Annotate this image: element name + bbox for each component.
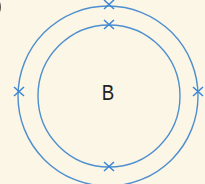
element-symbol: B bbox=[98, 80, 118, 106]
electron-outer-top-icon bbox=[104, 0, 114, 9]
